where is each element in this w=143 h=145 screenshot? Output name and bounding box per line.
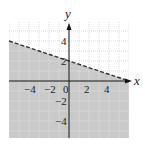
x-tick-label: 4 [104, 83, 110, 95]
x-tick-label: −2 [44, 83, 56, 95]
x-axis-label: x [133, 73, 140, 88]
y-tick-label: −4 [55, 115, 67, 127]
y-tick-label: −2 [55, 95, 67, 107]
y-axis-label: y [63, 6, 71, 21]
x-tick-label: 2 [84, 83, 90, 95]
y-axis-arrow-icon [67, 23, 72, 30]
x-tick-label: −4 [24, 83, 36, 95]
inequality-graph: x y −4−2024 42−2−4 [0, 0, 143, 145]
y-tick-label: 2 [61, 55, 67, 67]
y-tick-label: 4 [61, 35, 67, 47]
x-tick-label: 0 [63, 83, 69, 95]
